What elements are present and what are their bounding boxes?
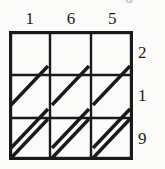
diagonal-r1c1 [11,66,48,105]
diagonal-r3c2 [52,119,89,158]
diagonal-r2c1 [11,109,48,148]
top-label-2: 6 [50,9,91,29]
lattice-grid-svg [9,31,133,160]
diagonal-r3c3 [93,119,130,158]
clipped-top-glyph: 0 [118,0,140,7]
diagonal-r2c3 [93,109,130,148]
diagonal-r1c3 [93,66,130,105]
right-label-2: 1 [136,74,162,117]
lattice-grid [9,31,133,160]
right-label-1: 2 [136,31,162,74]
lattice-cell-diagonals [11,66,130,158]
top-label-1: 1 [9,9,50,29]
top-label-row: 1 6 5 [9,9,133,29]
right-label-3: 9 [136,117,162,160]
diagonal-r2c2 [52,109,89,148]
figure-canvas: 0 1 6 5 2 1 9 [0,0,165,169]
diagonal-r1c2 [52,66,89,105]
diagonal-r3c1 [11,119,48,158]
right-label-column: 2 1 9 [136,31,162,160]
top-label-3: 5 [92,9,133,29]
